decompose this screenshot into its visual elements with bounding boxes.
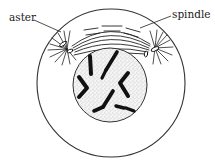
aster-left [48, 31, 76, 65]
spindle-leader-line [140, 16, 171, 28]
aster-label: aster [9, 12, 36, 23]
leader-lines [34, 16, 171, 32]
spindle-label: spindle [172, 9, 211, 20]
chromosome-1 [90, 56, 91, 74]
aster-leader-line [34, 20, 61, 32]
aster-right [144, 30, 173, 64]
mitosis-diagram: aster spindle [0, 0, 215, 161]
